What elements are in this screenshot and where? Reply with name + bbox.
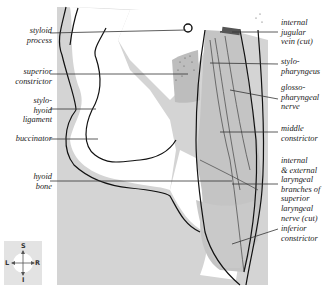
label-inferior-constrictor: inferior constrictor xyxy=(281,224,327,243)
superior-constrictor-muscle xyxy=(172,50,200,103)
compass-left: L xyxy=(5,259,9,267)
compass-right: R xyxy=(35,259,40,267)
label-glossopharyngeal-nerve: glosso- pharyngeal nerve xyxy=(281,83,327,112)
compass-inferior: I xyxy=(22,276,24,284)
orientation-compass: S I L R xyxy=(4,241,42,285)
anatomy-figure: styloid process superior constrictor sty… xyxy=(0,0,327,293)
label-stylopharyngeus: stylo- pharyngeus xyxy=(281,57,327,76)
compass-superior: S xyxy=(21,242,26,250)
label-superior-constrictor: superior constrictor xyxy=(0,67,52,86)
label-middle-constrictor: middle constrictor xyxy=(281,124,327,143)
label-styloid-process: styloid process xyxy=(0,26,52,45)
label-hyoid-bone: hyoid bone xyxy=(0,172,52,191)
label-buccinator: buccinator xyxy=(0,134,52,144)
label-internal-jugular-vein: internal jugular vein (cut) xyxy=(281,18,327,47)
label-laryngeal-branches: internal & external laryngeal branches o… xyxy=(281,156,327,223)
label-stylohyoid-ligament: stylo- hyoid ligament xyxy=(0,96,52,125)
